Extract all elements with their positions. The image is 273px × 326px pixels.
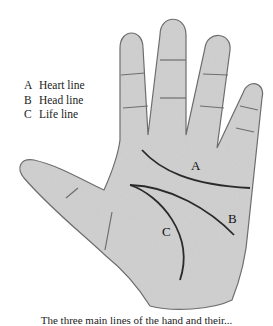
label-c: C bbox=[162, 224, 171, 239]
legend-label: Head line bbox=[39, 94, 83, 106]
label-a: A bbox=[191, 158, 201, 173]
figure-caption: The three main lines of the hand and the… bbox=[0, 314, 273, 326]
legend-label: Life line bbox=[39, 108, 78, 120]
label-b: B bbox=[228, 211, 237, 226]
legend-key: C bbox=[24, 107, 36, 122]
legend-key: B bbox=[24, 93, 36, 108]
legend-item-heart-line: A Heart line bbox=[24, 78, 85, 93]
legend-item-life-line: C Life line bbox=[24, 107, 85, 122]
legend-item-head-line: B Head line bbox=[24, 93, 85, 108]
legend-key: A bbox=[24, 78, 36, 93]
legend-label: Heart line bbox=[39, 79, 85, 91]
legend: A Heart line B Head line C Life line bbox=[24, 78, 85, 122]
